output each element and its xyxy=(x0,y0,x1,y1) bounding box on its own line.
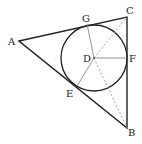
label-b: B xyxy=(128,127,135,138)
geometry-diagram: A C B G D F E xyxy=(0,0,142,144)
triangle-abc xyxy=(19,17,127,128)
label-g: G xyxy=(82,13,90,24)
label-f: F xyxy=(129,53,136,64)
label-d: D xyxy=(83,53,91,64)
center-point-d xyxy=(93,57,95,59)
label-c: C xyxy=(126,5,134,16)
label-a: A xyxy=(7,36,16,47)
dashed-db xyxy=(94,58,127,128)
label-e: E xyxy=(66,88,73,99)
